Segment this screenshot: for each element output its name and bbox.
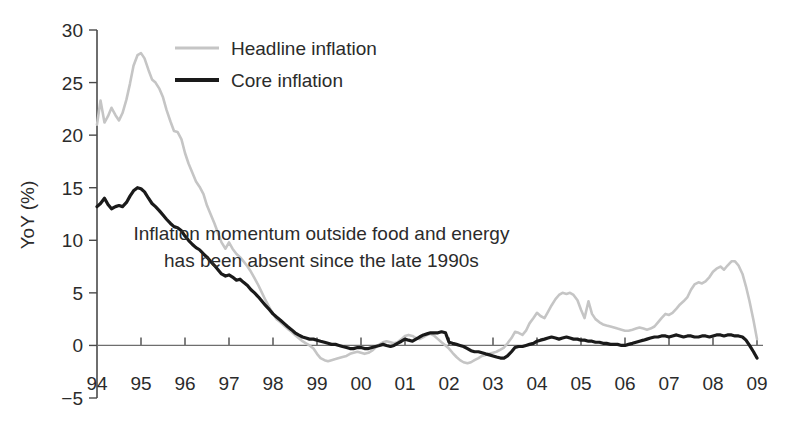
x-tick-label: 07 — [658, 373, 679, 394]
y-tick-label: −5 — [61, 388, 83, 409]
x-tick-label: 96 — [174, 373, 195, 394]
y-tick-label: 5 — [72, 283, 83, 304]
x-tick-label: 94 — [86, 373, 108, 394]
inflation-chart: −5051015202530 9495969798990001020304050… — [0, 0, 793, 442]
x-tick-label: 03 — [482, 373, 503, 394]
x-tick-label: 04 — [526, 373, 548, 394]
x-tick-label: 09 — [746, 373, 767, 394]
x-tick-label: 00 — [350, 373, 371, 394]
legend-label-1: Core inflation — [231, 70, 343, 91]
x-tick-label: 05 — [570, 373, 591, 394]
inflation-momentum-note-line: Inflation momentum outside food and ener… — [133, 223, 510, 244]
y-tick-label: 20 — [62, 125, 83, 146]
y-axis-title-text: YoY (%) — [17, 181, 38, 250]
x-tick-label: 95 — [130, 373, 151, 394]
x-tick-label: 08 — [702, 373, 723, 394]
x-tick-label: 98 — [262, 373, 283, 394]
x-tick-label: 01 — [394, 373, 415, 394]
x-tick-label: 06 — [614, 373, 635, 394]
legend-label-0: Headline inflation — [231, 38, 377, 59]
y-tick-label: 0 — [72, 335, 83, 356]
y-tick-label: 15 — [62, 178, 83, 199]
x-tick-label: 97 — [218, 373, 239, 394]
y-tick-label: 25 — [62, 73, 83, 94]
y-tick-label: 10 — [62, 230, 83, 251]
x-tick-label: 02 — [438, 373, 459, 394]
x-tick-label: 99 — [306, 373, 327, 394]
y-tick-label: 30 — [62, 20, 83, 41]
inflation-momentum-note-line: has been absent since the late 1990s — [164, 250, 479, 271]
chart-canvas: −5051015202530 9495969798990001020304050… — [0, 0, 793, 442]
y-axis-title: YoY (%) — [17, 181, 38, 250]
